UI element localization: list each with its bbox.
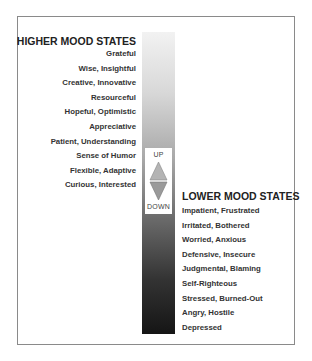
higher-mood-item: Wise, Insightful bbox=[51, 62, 136, 77]
lower-mood-item: Defensive, Insecure bbox=[182, 248, 263, 263]
lower-mood-item: Angry, Hostile bbox=[182, 306, 263, 321]
up-down-indicator: UP DOWN bbox=[145, 148, 172, 214]
lower-mood-item: Depressed bbox=[182, 321, 263, 336]
lower-mood-item: Worried, Anxious bbox=[182, 233, 263, 248]
up-down-arrow-icon bbox=[149, 161, 168, 201]
lower-mood-item: Self-Righteous bbox=[182, 277, 263, 292]
lower-mood-item: Irritated, Bothered bbox=[182, 219, 263, 234]
higher-mood-item: Resourceful bbox=[51, 91, 136, 106]
lower-mood-item: Stressed, Burned-Out bbox=[182, 292, 263, 307]
lower-mood-states-heading: LOWER MOOD STATES bbox=[182, 190, 299, 202]
higher-mood-item: Hopeful, Optimistic bbox=[51, 105, 136, 120]
higher-mood-item: Appreciative bbox=[51, 120, 136, 135]
higher-mood-states-heading: HIGHER MOOD STATES bbox=[17, 35, 136, 47]
higher-mood-item: Patient, Understanding bbox=[51, 135, 136, 150]
lower-mood-item: Impatient, Frustrated bbox=[182, 204, 263, 219]
lower-mood-states-list: Impatient, Frustrated Irritated, Bothere… bbox=[182, 204, 263, 335]
down-label: DOWN bbox=[145, 203, 172, 210]
higher-mood-states-list: Grateful Wise, Insightful Creative, Inno… bbox=[51, 47, 136, 193]
higher-mood-item: Creative, Innovative bbox=[51, 76, 136, 91]
up-label: UP bbox=[145, 151, 172, 158]
higher-mood-item: Grateful bbox=[51, 47, 136, 62]
lower-mood-item: Judgmental, Blaming bbox=[182, 262, 263, 277]
higher-mood-item: Sense of Humor bbox=[51, 149, 136, 164]
higher-mood-item: Flexible, Adaptive bbox=[51, 164, 136, 179]
higher-mood-item: Curious, Interested bbox=[51, 178, 136, 193]
